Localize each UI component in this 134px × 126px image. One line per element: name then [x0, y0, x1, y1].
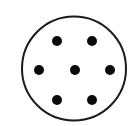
diagram-canvas	[0, 0, 134, 126]
dot-7	[87, 95, 97, 105]
dot-circle-diagram	[0, 0, 134, 126]
dot-3	[34, 65, 44, 75]
dot-1	[52, 36, 62, 46]
dot-2	[87, 36, 97, 46]
dot-4	[70, 65, 80, 75]
dot-5	[105, 65, 115, 75]
dot-6	[52, 95, 62, 105]
